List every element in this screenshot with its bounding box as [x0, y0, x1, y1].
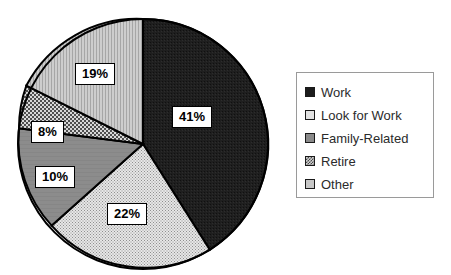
pie-label-other: 19% — [75, 63, 115, 85]
pie-label-look-for-work: 22% — [107, 203, 147, 225]
pie-label-retire: 8% — [31, 121, 64, 143]
pie-label-work: 41% — [172, 106, 212, 128]
legend-item-family-related[interactable]: Family-Related — [305, 127, 433, 149]
legend-label-family-related: Family-Related — [321, 132, 408, 145]
pie-label-family-related: 10% — [35, 166, 75, 188]
legend-item-other[interactable]: Other — [305, 173, 433, 195]
pie-chart: 41% 22% 10% 8% 19% — [0, 0, 290, 275]
legend-item-look-for-work[interactable]: Look for Work — [305, 104, 433, 126]
work-swatch-icon — [305, 87, 315, 97]
chart-legend: Work Look for Work Family-Related Retire… — [296, 72, 434, 198]
chart-canvas: 41% 22% 10% 8% 19% Work Look for Work Fa… — [0, 0, 451, 275]
legend-label-look-for-work: Look for Work — [321, 109, 402, 122]
retire-swatch-icon — [305, 156, 315, 166]
look-for-work-swatch-icon — [305, 110, 315, 120]
legend-item-retire[interactable]: Retire — [305, 150, 433, 172]
other-swatch-icon — [305, 179, 315, 189]
family-related-swatch-icon — [305, 133, 315, 143]
legend-label-other: Other — [321, 178, 354, 191]
legend-label-work: Work — [321, 86, 351, 99]
legend-label-retire: Retire — [321, 155, 356, 168]
legend-item-work[interactable]: Work — [305, 81, 433, 103]
